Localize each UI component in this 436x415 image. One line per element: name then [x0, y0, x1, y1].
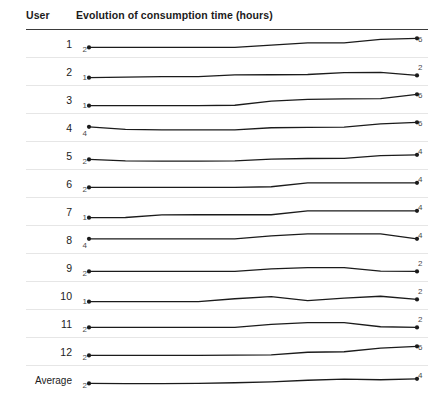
chart-row: 126 [0, 30, 436, 58]
sparkline-end-value: 4 [418, 137, 428, 165]
sparkline-svg [89, 170, 417, 198]
sparkline-end-value: 6 [418, 333, 428, 361]
chart-row: 922 [0, 254, 436, 282]
row-label-average: Average [10, 366, 72, 394]
chart-row: 524 [0, 142, 436, 170]
sparkline-svg [89, 338, 417, 366]
sparkline-start-dot [87, 104, 91, 108]
chart-row: 1122 [0, 310, 436, 338]
sparkline-start-dot [87, 216, 91, 220]
sparkline-end-dot [415, 209, 419, 213]
sparkline-end-dot [415, 92, 419, 96]
sparkline-start-dot [87, 381, 91, 385]
sparkline: 22 [78, 254, 428, 282]
row-label-user: 10 [10, 282, 72, 310]
sparkline-end-dot [415, 269, 419, 273]
sparkline-end-dot [415, 181, 419, 185]
sparkline-end-dot [415, 325, 419, 329]
sparkline-svg [89, 114, 417, 142]
chart-row-average: Average24 [0, 366, 436, 394]
sparkline-start-dot [87, 45, 91, 49]
sparkline: 26 [78, 338, 428, 366]
sparkline-end-value: 2 [418, 249, 428, 277]
sparkline-svg [89, 142, 417, 170]
row-label-user: 12 [10, 338, 72, 366]
sparkline-end-value: 6 [418, 109, 428, 137]
column-header-user: User [26, 9, 72, 21]
sparkline: 14 [78, 198, 428, 226]
sparkline-svg [89, 254, 417, 282]
sparkline: 24 [78, 170, 428, 198]
sparkline-svg [89, 282, 417, 310]
sparkline-svg [89, 226, 417, 254]
sparkline-start-value: 2 [78, 371, 87, 399]
sparkline-end-value: 2 [418, 277, 428, 305]
column-header-series: Evolution of consumption time (hours) [76, 9, 273, 21]
sparkline-table: User Evolution of consumption time (hour… [0, 0, 436, 415]
sparkline-start-dot [87, 300, 91, 304]
sparkline: 26 [78, 30, 428, 58]
chart-rows: 126212316446524624714844922101211221226A… [0, 30, 436, 415]
row-label-user: 9 [10, 254, 72, 282]
table-header: User Evolution of consumption time (hour… [0, 0, 436, 30]
row-label-user: 8 [10, 226, 72, 254]
row-label-user: 5 [10, 142, 72, 170]
row-label-user: 3 [10, 86, 72, 114]
sparkline-start-dot [87, 76, 91, 80]
sparkline-svg [89, 30, 417, 58]
sparkline-end-dot [415, 344, 419, 348]
sparkline-end-value: 4 [418, 361, 428, 389]
sparkline-end-value: 6 [418, 25, 428, 53]
chart-row: 844 [0, 226, 436, 254]
row-label-user: 11 [10, 310, 72, 338]
sparkline-end-value: 4 [418, 165, 428, 193]
sparkline-svg [89, 366, 417, 394]
sparkline-svg [89, 310, 417, 338]
row-label-user: 6 [10, 170, 72, 198]
sparkline-end-dot [415, 377, 419, 381]
chart-row: 1012 [0, 282, 436, 310]
chart-row: 446 [0, 114, 436, 142]
sparkline-start-dot [87, 185, 91, 189]
sparkline: 24 [78, 142, 428, 170]
sparkline-end-dot [415, 297, 419, 301]
sparkline-end-dot [415, 73, 419, 77]
chart-row: 212 [0, 58, 436, 86]
sparkline-end-value: 4 [418, 221, 428, 249]
sparkline-end-value: 2 [418, 53, 428, 81]
sparkline-start-dot [87, 125, 91, 129]
sparkline: 22 [78, 310, 428, 338]
sparkline: 16 [78, 86, 428, 114]
sparkline: 24 [78, 366, 428, 394]
chart-row: 624 [0, 170, 436, 198]
sparkline-start-dot [87, 325, 91, 329]
sparkline-start-dot [87, 353, 91, 357]
sparkline-end-value: 2 [418, 305, 428, 333]
chart-row: 316 [0, 86, 436, 114]
sparkline-svg [89, 86, 417, 114]
chart-row: 1226 [0, 338, 436, 366]
row-label-user: 2 [10, 58, 72, 86]
sparkline-end-value: 6 [418, 81, 428, 109]
row-label-user: 7 [10, 198, 72, 226]
sparkline-start-dot [87, 157, 91, 161]
sparkline-end-dot [415, 36, 419, 40]
sparkline-end-dot [415, 237, 419, 241]
row-label-user: 4 [10, 114, 72, 142]
sparkline-svg [89, 198, 417, 226]
sparkline: 12 [78, 282, 428, 310]
sparkline-end-dot [415, 120, 419, 124]
sparkline: 12 [78, 58, 428, 86]
sparkline: 44 [78, 226, 428, 254]
sparkline: 46 [78, 114, 428, 142]
sparkline-start-dot [87, 269, 91, 273]
row-label-user: 1 [10, 30, 72, 58]
sparkline-start-dot [87, 237, 91, 241]
sparkline-svg [89, 58, 417, 86]
chart-row: 714 [0, 198, 436, 226]
sparkline-end-dot [415, 153, 419, 157]
sparkline-end-value: 4 [418, 193, 428, 221]
